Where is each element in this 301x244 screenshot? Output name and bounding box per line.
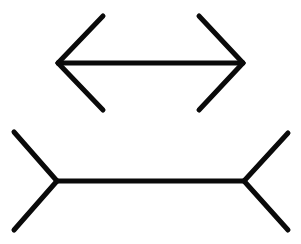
illusion-vector-drawing <box>0 0 301 244</box>
canvas-background <box>0 0 301 244</box>
muller-lyer-illusion-canvas <box>0 0 301 244</box>
